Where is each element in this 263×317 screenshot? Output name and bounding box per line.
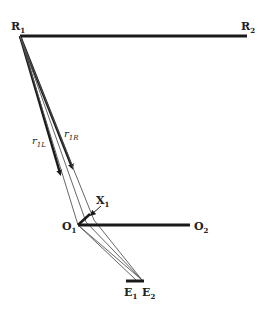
ray-r1-o1-thin-a <box>20 36 78 225</box>
ray-o1-e-thin-c <box>94 220 142 280</box>
ray-o1-e-thin-b <box>86 222 142 280</box>
label-e1: E1 <box>124 286 137 301</box>
label-r1: R1 <box>11 20 25 35</box>
label-o1: O1 <box>62 220 77 235</box>
x1-pointer-arrow <box>92 206 101 214</box>
ray-o1-e-thin-a <box>78 225 142 280</box>
ray-r1-o1-thin-c <box>20 36 94 220</box>
label-o2: O2 <box>194 220 209 235</box>
label-x1: X1 <box>96 194 110 209</box>
optics-diagram: R1 R2 r1L r1R X1 O1 O2 E1 E2 <box>0 0 263 317</box>
label-e2: E2 <box>142 286 155 301</box>
ray-r1-o1-thin-b <box>20 36 86 222</box>
label-r1r: r1R <box>64 128 79 142</box>
label-r1l: r1L <box>32 135 46 149</box>
ray-o1-e-thin-d <box>78 225 136 280</box>
label-r2: R2 <box>241 20 255 35</box>
